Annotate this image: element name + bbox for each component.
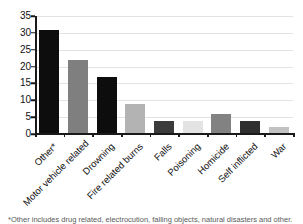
bars-group [35, 16, 293, 134]
y-axis-tick-label: 20 [20, 62, 31, 72]
x-axis-tick-mark [64, 133, 66, 137]
x-axis-category-label: Motor vehicle related [21, 141, 87, 207]
y-axis-line [35, 16, 37, 134]
y-axis-tick-label: 35 [20, 11, 31, 21]
bar-chart-figure: 05101520253035 Other*Motor vehicle relat… [0, 0, 303, 224]
bar [39, 30, 59, 135]
y-axis-tick-label: 30 [20, 28, 31, 38]
x-axis-category-label: War [80, 141, 288, 224]
x-axis-category-label: Fire related burns [38, 141, 145, 224]
x-axis-tick-mark [92, 133, 94, 137]
x-axis-category-label: Other* [13, 141, 59, 187]
x-axis-category-label: Drowning [30, 141, 116, 224]
bar [211, 114, 231, 134]
x-axis-category-label: Self inflicted [72, 141, 260, 224]
x-axis-tick-mark [150, 133, 152, 137]
x-axis-line [35, 133, 293, 135]
bar [97, 77, 117, 134]
plot-area: 05101520253035 [35, 16, 293, 134]
figure-caption: *Other includes drug related, electrocut… [8, 215, 298, 224]
x-axis-tick-mark [264, 133, 266, 137]
bar [125, 104, 145, 134]
bar [183, 121, 203, 134]
y-axis-tick-label: 15 [20, 78, 31, 88]
bar [240, 121, 260, 134]
x-axis-category-label: Poisoning [55, 141, 202, 224]
x-axis-category-label: Falls [46, 141, 173, 224]
y-axis-tick-label: 10 [20, 95, 31, 105]
x-axis-tick-mark [178, 133, 180, 137]
x-axis-tick-mark [207, 133, 209, 137]
y-axis-tick-label: 25 [20, 45, 31, 55]
bar [68, 60, 88, 134]
x-axis-category-label: Homicide [63, 141, 230, 224]
x-axis-tick-mark [121, 133, 123, 137]
x-axis-tick-mark [236, 133, 238, 137]
bar [154, 121, 174, 134]
x-axis-tick-mark [293, 133, 295, 137]
x-axis-tick-mark [35, 133, 37, 137]
